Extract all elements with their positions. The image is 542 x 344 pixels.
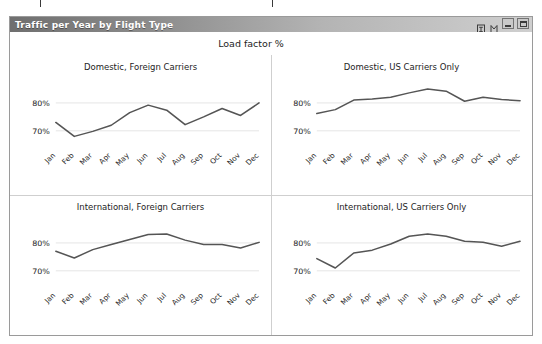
y-axis-tick-label: 80% xyxy=(32,239,50,248)
plot-area: 70%80%JanFebMarAprMayJunJulAugSepOctNovD… xyxy=(271,215,532,335)
x-axis-tick-label: Mar xyxy=(78,291,95,306)
x-axis-tick-label: Jun xyxy=(395,291,411,306)
x-axis-tick-label: Oct xyxy=(208,151,224,166)
maximize-icon xyxy=(520,21,527,27)
window-controls xyxy=(476,18,529,29)
x-axis-tick-label: Jan xyxy=(303,151,318,165)
data-line xyxy=(56,103,259,136)
x-axis-tick-label: Feb xyxy=(321,291,337,306)
panel-title: International, US Carriers Only xyxy=(271,195,532,214)
x-axis-tick-label: May xyxy=(375,151,393,168)
plot-area: 70%80%JanFebMarAprMayJunJulAugSepOctNovD… xyxy=(271,75,532,195)
x-axis-tick-label: Sep xyxy=(450,151,467,167)
x-axis-tick-label: Jul xyxy=(415,151,429,164)
restore-icon[interactable] xyxy=(489,19,499,29)
y-axis-tick-label: 70% xyxy=(293,267,311,276)
x-axis-tick-label: Jun xyxy=(395,151,411,166)
x-axis-tick-label: Jul xyxy=(154,291,168,304)
x-axis-tick-label: Apr xyxy=(358,291,374,306)
chart-panel-domestic-foreign: Domestic, Foreign Carriers 70%80%JanFebM… xyxy=(10,55,271,195)
x-axis-tick-label: Aug xyxy=(170,291,187,307)
data-line xyxy=(317,234,520,268)
maximize-button[interactable] xyxy=(517,18,529,29)
x-axis-tick-label: Nov xyxy=(486,291,503,307)
y-axis-tick-label: 70% xyxy=(32,267,50,276)
panel-title: International, Foreign Carriers xyxy=(10,195,271,214)
chart-panel-international-us: International, US Carriers Only 70%80%Ja… xyxy=(271,195,532,335)
x-axis-tick-label: Feb xyxy=(321,151,337,166)
x-axis-tick-label: Dec xyxy=(244,151,261,167)
data-line xyxy=(317,89,520,114)
chart-title: Load factor % xyxy=(10,33,532,49)
x-axis-tick-label: Oct xyxy=(469,151,485,166)
x-axis-tick-label: Dec xyxy=(505,291,522,307)
y-axis-tick-label: 80% xyxy=(32,99,50,108)
panel-title: Domestic, Foreign Carriers xyxy=(10,55,271,74)
x-axis-tick-label: Jun xyxy=(134,291,150,306)
chart-panel-domestic-us: Domestic, US Carriers Only 70%80%JanFebM… xyxy=(271,55,532,195)
chart-panel-international-foreign: International, Foreign Carriers 70%80%Ja… xyxy=(10,195,271,335)
crop-mark-left xyxy=(40,0,41,7)
y-axis-tick-label: 70% xyxy=(32,127,50,136)
trellis-grid: Domestic, Foreign Carriers 70%80%JanFebM… xyxy=(10,55,532,335)
x-axis-tick-label: Nov xyxy=(225,291,242,307)
x-axis-tick-label: Jan xyxy=(303,291,318,305)
x-axis-tick-label: Apr xyxy=(97,151,113,166)
y-axis-tick-label: 80% xyxy=(293,239,311,248)
x-axis-tick-label: Feb xyxy=(60,291,76,306)
x-axis-tick-label: Jun xyxy=(134,151,150,166)
help-icon[interactable] xyxy=(476,19,486,29)
x-axis-tick-label: Oct xyxy=(469,291,485,306)
x-axis-tick-label: Jan xyxy=(42,151,57,165)
plot-area: 70%80%JanFebMarAprMayJunJulAugSepOctNovD… xyxy=(10,75,271,195)
x-axis-tick-label: Apr xyxy=(97,291,113,306)
plot-area: 70%80%JanFebMarAprMayJunJulAugSepOctNovD… xyxy=(10,215,271,335)
x-axis-tick-label: Jan xyxy=(42,291,57,305)
x-axis-tick-label: May xyxy=(114,151,132,168)
window-title: Traffic per Year by Flight Type xyxy=(10,20,173,30)
minimize-button[interactable] xyxy=(502,18,514,29)
x-axis-tick-label: Nov xyxy=(486,151,503,167)
x-axis-tick-label: Sep xyxy=(450,291,467,307)
x-axis-tick-label: Dec xyxy=(244,291,261,307)
x-axis-tick-label: Sep xyxy=(189,291,206,307)
x-axis-tick-label: May xyxy=(375,291,393,308)
minimize-icon xyxy=(505,25,511,27)
x-axis-tick-label: Oct xyxy=(208,291,224,306)
y-axis-tick-label: 80% xyxy=(293,99,311,108)
x-axis-tick-label: Jul xyxy=(415,291,429,304)
window-client-area: Load factor % Domestic, Foreign Carriers… xyxy=(10,32,532,335)
x-axis-tick-label: Sep xyxy=(189,151,206,167)
x-axis-tick-label: Mar xyxy=(339,151,356,166)
mdi-child-window: Traffic per Year by Flight Type Lo xyxy=(9,16,533,336)
x-axis-tick-label: Aug xyxy=(170,151,187,167)
panel-title: Domestic, US Carriers Only xyxy=(271,55,532,74)
crop-mark-right xyxy=(272,0,273,7)
x-axis-tick-label: Mar xyxy=(339,291,356,306)
x-axis-tick-label: Apr xyxy=(358,151,374,166)
x-axis-tick-label: Aug xyxy=(431,291,448,307)
x-axis-tick-label: Jul xyxy=(154,151,168,164)
y-axis-tick-label: 70% xyxy=(293,127,311,136)
x-axis-tick-label: Dec xyxy=(505,151,522,167)
x-axis-tick-label: Mar xyxy=(78,151,95,166)
x-axis-tick-label: May xyxy=(114,291,132,308)
x-axis-tick-label: Nov xyxy=(225,151,242,167)
data-line xyxy=(56,234,259,258)
x-axis-tick-label: Feb xyxy=(60,151,76,166)
x-axis-tick-label: Aug xyxy=(431,151,448,167)
window-titlebar[interactable]: Traffic per Year by Flight Type xyxy=(10,17,532,33)
